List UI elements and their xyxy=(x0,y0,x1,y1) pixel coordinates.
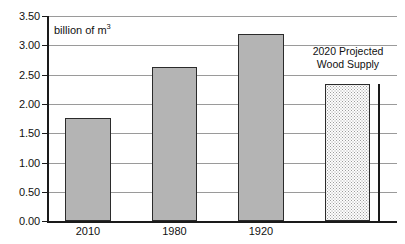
y-tick-3-00 xyxy=(42,45,47,46)
y-axis-unit-exponent: 3 xyxy=(107,22,111,31)
y-tick-2-50 xyxy=(42,75,47,76)
y-tick-0-50 xyxy=(42,192,47,193)
y-tick-label-2-50: 2.50 xyxy=(19,70,40,81)
bar-2010 xyxy=(65,118,111,221)
y-axis-line xyxy=(47,16,49,222)
projected-supply-annotation: 2020 Projected Wood Supply xyxy=(300,45,396,71)
y-tick-2-00 xyxy=(42,104,47,105)
y-tick-label-3-00: 3.00 xyxy=(19,40,40,51)
y-tick-label-2-00: 2.00 xyxy=(19,99,40,110)
gridline-3-50 xyxy=(47,16,397,17)
y-tick-1-00 xyxy=(42,163,47,164)
gridline-2-50 xyxy=(47,75,397,76)
x-label-1980: 1980 xyxy=(152,225,197,237)
y-tick-label-1-50: 1.50 xyxy=(19,128,40,139)
x-axis-line xyxy=(47,221,397,223)
bar-2020-projected xyxy=(325,84,370,221)
bar-chart: 3.50 3.00 2.50 2.00 1.50 1.00 0.50 0.00 … xyxy=(0,0,405,244)
x-label-1920: 1920 xyxy=(238,225,284,237)
y-tick-label-0-00: 0.00 xyxy=(19,216,40,227)
y-tick-0-00 xyxy=(42,221,47,222)
y-axis-unit-text: billion of m xyxy=(54,24,107,36)
bar-1920 xyxy=(238,34,284,221)
projected-region-edge xyxy=(378,84,380,222)
y-tick-label-3-50: 3.50 xyxy=(19,11,40,22)
y-axis-unit-label: billion of m3 xyxy=(54,24,111,36)
y-tick-label-0-50: 0.50 xyxy=(19,187,40,198)
y-tick-1-50 xyxy=(42,133,47,134)
y-tick-label-1-00: 1.00 xyxy=(19,158,40,169)
bar-1980 xyxy=(152,67,197,221)
x-label-2010: 2010 xyxy=(65,225,111,237)
annotation-line-1: 2020 Projected xyxy=(300,45,396,58)
annotation-line-2: Wood Supply xyxy=(300,58,396,71)
y-tick-3-50 xyxy=(42,16,47,17)
